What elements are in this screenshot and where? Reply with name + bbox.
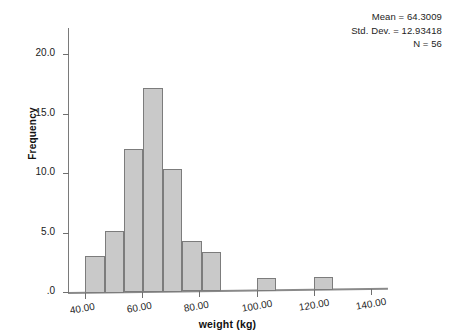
x-axis-tick-label: 120.00 <box>298 296 330 312</box>
y-axis-tick-label: 15.0 <box>36 107 55 118</box>
x-axis-title: weight (kg) <box>0 318 455 330</box>
x-axis-tick <box>314 290 315 296</box>
y-axis-tick: 10.0 <box>63 173 69 174</box>
x-axis-tick-label: 100.00 <box>241 297 273 313</box>
x-axis-tick-label: 80.00 <box>183 299 210 314</box>
histogram-bar <box>182 241 201 292</box>
x-axis-tick-label: 60.00 <box>126 300 153 315</box>
histogram-bar <box>202 252 221 291</box>
histogram-bar <box>85 256 104 293</box>
histogram-bar <box>105 231 124 293</box>
y-axis-tick-label: 5.0 <box>41 226 55 237</box>
y-axis-tick: 15.0 <box>63 114 69 115</box>
y-axis-tick: .0 <box>63 292 69 293</box>
x-axis-tick <box>257 291 258 297</box>
y-axis-tick: 20.0 <box>63 54 69 55</box>
y-axis-tick-label: .0 <box>47 285 55 296</box>
stat-mean: Mean = 64.3009 <box>351 10 442 24</box>
histogram-bar <box>143 88 162 292</box>
y-axis-tick-label: 10.0 <box>36 166 55 177</box>
y-axis-tick-label: 20.0 <box>36 47 55 58</box>
y-axis-line <box>68 28 69 294</box>
x-axis-tick <box>371 289 372 295</box>
histogram-figure: Mean = 64.3009 Std. Dev. = 12.93418 N = … <box>0 0 455 335</box>
histogram-bar <box>257 278 276 291</box>
x-axis-tick-label: 140.00 <box>355 296 387 312</box>
histogram-bar <box>124 149 143 293</box>
x-axis-tick <box>199 291 200 297</box>
x-axis-tick-label: 40.00 <box>69 300 96 315</box>
histogram-bar <box>314 277 333 290</box>
plot-area: .05.010.015.020.0 40.0060.0080.00100.001… <box>68 28 388 294</box>
x-axis-tick <box>142 292 143 298</box>
x-axis-tick <box>85 293 86 299</box>
y-axis-tick: 5.0 <box>63 233 69 234</box>
histogram-bar <box>163 169 182 291</box>
